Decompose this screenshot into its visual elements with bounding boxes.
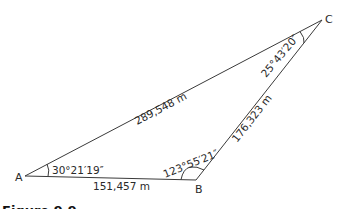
angle-arc-c — [300, 32, 304, 44]
figure-caption: Figure 9.9 — [2, 203, 77, 209]
vertex-label-b: B — [195, 183, 203, 196]
side-label-ac: 289,548 m — [132, 90, 188, 127]
triangle-diagram: A B C 30°21′19″ 123°55′21″ 25°43′20″ 151… — [0, 0, 348, 209]
angle-label-b: 123°55′21″ — [161, 147, 220, 180]
angle-label-a: 30°21′19″ — [52, 164, 104, 176]
side-label-bc: 176,323 m — [229, 92, 274, 144]
angle-arc-a — [47, 164, 49, 177]
side-label-ab: 151,457 m — [93, 180, 150, 192]
vertex-label-c: C — [325, 13, 333, 26]
vertex-label-a: A — [15, 171, 23, 184]
